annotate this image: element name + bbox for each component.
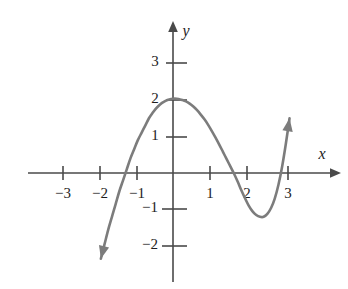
x-tick-label-1: 1	[206, 185, 214, 201]
y-tick-label-1: 1	[151, 127, 159, 143]
x-tick-label-3: 3	[284, 185, 292, 201]
x-tick-label-neg3: −3	[55, 185, 71, 201]
y-tick-label-2: 2	[151, 90, 159, 106]
y-tick-label-3: 3	[151, 53, 159, 69]
y-tick-label-neg1: −1	[142, 199, 158, 215]
coordinate-plane-svg: −3 −2 −1 1 2 3 3 2 1 −1 −2 x y	[0, 0, 348, 289]
graph-figure: −3 −2 −1 1 2 3 3 2 1 −1 −2 x y	[0, 0, 348, 289]
x-tick-label-neg2: −2	[92, 185, 108, 201]
curve-right-arrowhead	[282, 118, 292, 132]
y-axis-label: y	[180, 22, 190, 40]
x-axis-arrowhead	[330, 168, 341, 178]
x-axis-label: x	[317, 145, 325, 162]
function-curve	[101, 99, 290, 259]
y-axis-arrowhead	[168, 21, 178, 32]
y-tick-label-neg2: −2	[142, 236, 158, 252]
